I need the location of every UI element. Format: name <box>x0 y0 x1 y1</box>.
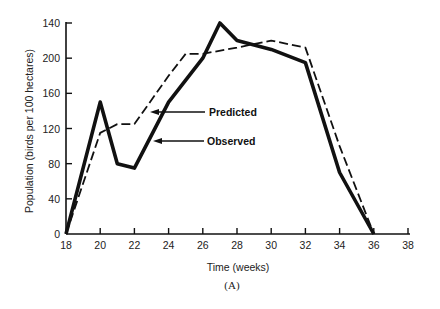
observed-series-line <box>66 23 374 234</box>
x-tick-label: 24 <box>163 239 175 251</box>
x-tick-label: 32 <box>300 239 312 251</box>
arrowhead-icon <box>150 109 159 115</box>
x-tick-label: 30 <box>265 239 277 251</box>
y-axis-title: Population (birds per 100 hectares) <box>23 49 35 213</box>
y-ticks <box>66 23 72 199</box>
x-tick-label: 38 <box>402 239 414 251</box>
y-tick-label: 140 <box>42 17 60 29</box>
y-tick-label: 120 <box>42 123 60 135</box>
predicted-label: Predicted <box>209 106 257 118</box>
x-tick-label: 18 <box>60 239 72 251</box>
x-tick-label: 26 <box>197 239 209 251</box>
observed-label: Observed <box>207 135 255 147</box>
y-tick-label: 200 <box>42 52 60 64</box>
x-axis-title: Time (weeks) <box>207 261 270 273</box>
observed-annotation: Observed <box>153 135 255 147</box>
line-chart: 04080120160200140 1820222426283032343638… <box>0 0 440 309</box>
axes <box>66 22 410 234</box>
y-tick-label: 160 <box>42 87 60 99</box>
arrowhead-icon <box>153 138 162 144</box>
x-tick-label: 34 <box>334 239 346 251</box>
x-tick-labels: 1820222426283032343638 <box>60 239 414 251</box>
x-tick-label: 20 <box>94 239 106 251</box>
y-tick-label: 40 <box>48 193 60 205</box>
x-tick-label: 36 <box>368 239 380 251</box>
x-tick-label: 22 <box>129 239 141 251</box>
y-tick-label: 80 <box>48 158 60 170</box>
x-tick-label: 28 <box>231 239 243 251</box>
figure-caption: (A) <box>224 279 240 292</box>
x-ticks <box>100 228 408 234</box>
y-tick-labels: 04080120160200140 <box>42 17 60 240</box>
